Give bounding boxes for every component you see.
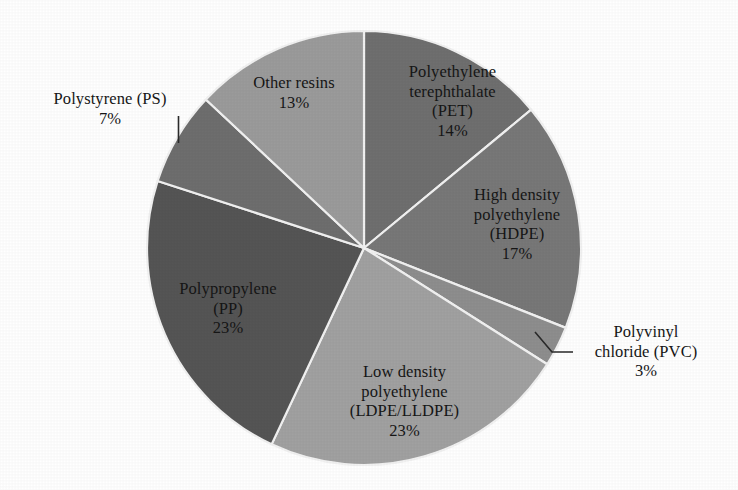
slice-value-other-resins: 13% xyxy=(228,93,360,113)
slice-label-ldpe-line3: (LDPE/LLDPE) xyxy=(312,401,497,421)
slice-value-pvc: 3% xyxy=(570,361,722,381)
slice-label-pet-line2: terephthalate xyxy=(375,82,530,102)
slice-label-hdpe: High density polyethylene (HDPE) 17% xyxy=(438,185,596,263)
slice-value-ldpe: 23% xyxy=(312,421,497,441)
slice-value-pp: 23% xyxy=(148,318,308,338)
slice-label-ldpe-line2: polyethylene xyxy=(312,382,497,402)
slice-value-hdpe: 17% xyxy=(438,244,596,264)
slice-label-ps: Polystyrene (PS) 7% xyxy=(36,89,184,128)
slice-label-pvc: Polyvinyl chloride (PVC) 3% xyxy=(570,322,722,381)
slice-label-ps-line1: Polystyrene (PS) xyxy=(36,89,184,109)
slice-label-pp-line1: Polypropylene xyxy=(148,279,308,299)
slice-label-pet-line1: Polyethylene xyxy=(375,62,530,82)
slice-label-pp: Polypropylene (PP) 23% xyxy=(148,279,308,338)
slice-label-hdpe-line2: polyethylene xyxy=(438,205,596,225)
slice-label-ldpe: Low density polyethylene (LDPE/LLDPE) 23… xyxy=(312,362,497,440)
slice-label-pet-line3: (PET) xyxy=(375,101,530,121)
slice-label-hdpe-line3: (HDPE) xyxy=(438,224,596,244)
slice-value-ps: 7% xyxy=(36,109,184,129)
slice-label-ldpe-line1: Low density xyxy=(312,362,497,382)
slice-label-pvc-line2: chloride (PVC) xyxy=(570,342,722,362)
slice-value-pet: 14% xyxy=(375,121,530,141)
slice-label-other-resins-line1: Other resins xyxy=(228,73,360,93)
slice-label-pet: Polyethylene terephthalate (PET) 14% xyxy=(375,62,530,140)
slice-label-pvc-line1: Polyvinyl xyxy=(570,322,722,342)
slice-label-pp-line2: (PP) xyxy=(148,299,308,319)
pie-chart: Polyethylene terephthalate (PET) 14% Hig… xyxy=(0,0,738,490)
slice-label-other-resins: Other resins 13% xyxy=(228,73,360,112)
slice-label-hdpe-line1: High density xyxy=(438,185,596,205)
